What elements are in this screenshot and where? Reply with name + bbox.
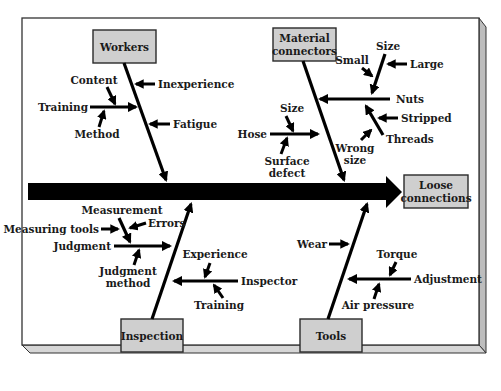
cause-air-pressure: Air pressure (341, 299, 415, 311)
effect-label-line1: Loose (419, 179, 453, 191)
cause-wrong-size-line1: Wrong (335, 142, 375, 154)
cause-errors: Errors (148, 217, 186, 229)
cause-experience: Experience (182, 248, 248, 260)
cause-torque: Torque (377, 248, 418, 260)
frame-bottom-edge (22, 345, 486, 353)
cause-judgment-method-line2: method (106, 277, 151, 289)
workers-label: Workers (99, 41, 149, 53)
cause-threads: Threads (386, 133, 434, 145)
cause-small: Small (335, 54, 368, 66)
cause-stripped: Stripped (401, 112, 452, 124)
cause-wrong-size-line2: size (344, 154, 367, 166)
cause-nuts-size: Size (376, 40, 401, 52)
cause-fatigue: Fatigue (173, 118, 217, 130)
cause-training: Training (38, 101, 89, 113)
effect-box: Loose connections (400, 175, 471, 208)
cause-method: Method (74, 128, 120, 140)
tools-label: Tools (316, 330, 347, 342)
fishbone-diagram: Loose connections Workers Inexperience F… (0, 0, 501, 391)
cause-hose: Hose (237, 128, 267, 140)
cause-measurement: Measurement (81, 204, 162, 216)
cause-measuring-tools: Measuring tools (3, 223, 99, 235)
cause-content: Content (70, 74, 117, 86)
cause-nuts: Nuts (396, 93, 424, 105)
cause-surface-defect-line1: Surface (264, 155, 309, 167)
cause-judgment: Judgment (52, 240, 111, 252)
effect-label-line2: connections (400, 192, 471, 204)
cause-adjustment: Adjustment (413, 273, 482, 285)
material-connectors-label-line1: Material (279, 32, 329, 44)
cause-inexperience: Inexperience (158, 78, 235, 90)
cause-judgment-method-line1: Judgment (98, 265, 157, 277)
inspection-label: Inspection (121, 330, 184, 342)
material-connectors-label-line2: connectors (272, 45, 337, 57)
cause-wear: Wear (296, 238, 327, 250)
cause-large: Large (410, 58, 444, 70)
cause-surface-defect-line2: defect (269, 167, 306, 179)
cause-inspection-training: Training (194, 299, 245, 311)
frame-right-edge (479, 18, 486, 353)
cause-inspector: Inspector (241, 275, 298, 287)
cause-hose-size: Size (280, 102, 305, 114)
